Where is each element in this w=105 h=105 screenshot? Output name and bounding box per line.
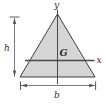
height-dim-arrow-up-icon <box>13 18 16 24</box>
centroid-label: G <box>60 47 68 58</box>
figure-canvas: y x G h b <box>0 0 105 105</box>
y-axis-label: y <box>53 0 60 10</box>
height-dim-label: h <box>4 43 10 53</box>
base-dim-arrow-right-icon <box>89 84 95 87</box>
base-dim-arrow-left-icon <box>21 84 27 87</box>
height-dim-arrow-down-icon <box>13 71 16 77</box>
base-dim-label: b <box>54 90 60 100</box>
x-axis-label: x <box>97 55 102 65</box>
triangle-centroid-figure: y x G h b <box>0 0 105 105</box>
